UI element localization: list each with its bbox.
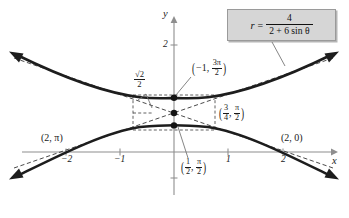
x-tick-label--1: −1	[114, 155, 125, 165]
equation-lhs: r	[250, 20, 254, 31]
label-vertex-lower-r: 1 2	[185, 158, 191, 177]
y-axis-arrowhead	[171, 16, 178, 23]
paren-open: (	[219, 106, 222, 121]
point-vertex-lower	[171, 122, 177, 128]
r-numerator: 1	[185, 158, 191, 167]
point-center	[171, 110, 177, 116]
theta-denominator: 2	[234, 113, 240, 123]
equation-callout-box: r = 4 2 + 6 sin θ	[227, 9, 336, 41]
paren-close: )	[223, 61, 226, 76]
sqrt2-denominator: 2	[134, 79, 145, 89]
theta-denominator: 2	[196, 167, 202, 177]
label-vertex-upper: (−1, 3π 2 )	[191, 59, 227, 78]
paren-close: )	[203, 160, 206, 175]
label-x-intercept-left: (2, π)	[41, 133, 63, 143]
label-directrix-theta: π 2	[234, 104, 240, 123]
theta-numerator: π	[196, 158, 202, 167]
y-axis-label: y	[163, 9, 168, 20]
sqrt2-numerator: √2	[134, 70, 145, 79]
x-axis-label: x	[332, 156, 337, 167]
label-vertex-upper-theta: 3π 2	[212, 59, 222, 78]
x-tick-label--2: −2	[61, 155, 72, 165]
paren-close: )	[241, 106, 244, 121]
label-sqrt2-over-2: √2 2	[134, 70, 145, 90]
x-tick-label-2: 2	[281, 155, 286, 165]
label-vertex-upper-r: −1	[196, 62, 207, 73]
leader-vertex-lower	[178, 127, 188, 158]
r-denominator: 2	[185, 167, 191, 177]
theta-numerator: 3π	[212, 59, 222, 68]
x-tick-label-1: 1	[226, 155, 231, 165]
leader-sqrt2-over-2	[146, 94, 152, 108]
paren-open: (	[192, 61, 195, 76]
r-numerator: 3	[223, 104, 229, 113]
label-directrix-r: 3 4	[223, 104, 229, 123]
theta-numerator: π	[234, 104, 240, 113]
equation-denominator: 2 + 6 sin θ	[266, 24, 312, 37]
y-tick-label-2: 2	[163, 40, 168, 50]
r-denominator: 4	[223, 113, 229, 123]
sqrt2-over-2-fraction: √2 2	[134, 70, 145, 90]
equation-numerator: 4	[266, 13, 312, 24]
marked-points-group	[171, 95, 177, 129]
label-directrix-point: ( 3 4 , π 2 )	[218, 104, 245, 123]
upper-right-arrowhead	[325, 52, 340, 63]
paren-open: (	[181, 160, 184, 175]
lower-left-arrowhead	[9, 169, 24, 180]
leader-equation-callout	[272, 42, 285, 66]
label-vertex-lower-theta: π 2	[196, 158, 202, 177]
leader-vertex-upper	[176, 77, 191, 95]
equation-equals: =	[258, 20, 264, 31]
equation-callout-content: r = 4 2 + 6 sin θ	[228, 10, 335, 40]
label-x-intercept-right: (2, 0)	[281, 133, 303, 143]
label-vertex-lower: ( 1 2 , π 2 )	[180, 158, 207, 177]
point-vertex-upper	[171, 95, 177, 101]
theta-denominator: 2	[212, 68, 222, 78]
lower-right-arrowhead	[325, 169, 340, 180]
equation-fraction: 4 2 + 6 sin θ	[266, 13, 312, 36]
